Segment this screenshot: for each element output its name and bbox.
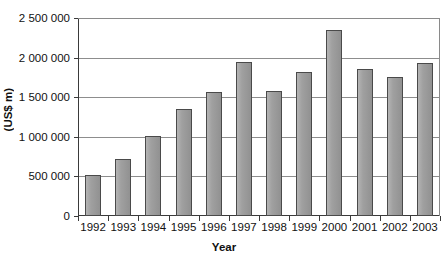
y-axis-tick-label: 500 000 xyxy=(28,170,70,182)
bar-2003 xyxy=(417,63,433,216)
bar-2001 xyxy=(357,69,373,216)
x-axis-tick-label: 1995 xyxy=(171,221,197,233)
bar-1994 xyxy=(145,136,161,216)
x-axis-tick-label: 1993 xyxy=(110,221,136,233)
bar-1995 xyxy=(176,109,192,216)
bar-1993 xyxy=(115,159,131,216)
bar-1998 xyxy=(266,91,282,216)
x-axis-tick-label: 2001 xyxy=(352,221,378,233)
x-axis-tick-label: 1997 xyxy=(231,221,257,233)
bar-2000 xyxy=(326,30,342,216)
x-axis-tick-label: 2002 xyxy=(382,221,408,233)
bar-1999 xyxy=(296,72,312,216)
x-axis-tick-label: 2000 xyxy=(322,221,348,233)
y-axis-tick-label: 1 500 000 xyxy=(19,91,70,103)
x-axis-tick-label: 1998 xyxy=(261,221,287,233)
x-axis-tick xyxy=(440,216,441,221)
y-axis-title: (US$ m) xyxy=(2,88,14,131)
x-axis-tick-label: 1994 xyxy=(141,221,167,233)
x-axis-title: Year xyxy=(0,241,448,253)
x-axis-tick-label: 2003 xyxy=(412,221,438,233)
bar-1992 xyxy=(85,175,101,216)
y-axis-tick-label: 1 000 000 xyxy=(19,131,70,143)
y-axis-tick-label: 2 500 000 xyxy=(19,12,70,24)
bar-chart: 0500 0001 000 0001 500 0002 000 0002 500… xyxy=(0,0,448,259)
x-axis-tick-label: 1992 xyxy=(80,221,106,233)
y-axis-tick-label: 0 xyxy=(64,210,70,222)
bar-series xyxy=(78,18,440,216)
x-axis-tick-labels: 1992199319941995199619971998199920002001… xyxy=(78,221,440,239)
y-axis-tick-label: 2 000 000 xyxy=(19,52,70,64)
bar-1996 xyxy=(206,92,222,216)
x-axis-tick-label: 1999 xyxy=(291,221,317,233)
bar-1997 xyxy=(236,62,252,216)
bar-2002 xyxy=(387,77,403,216)
x-axis-tick-label: 1996 xyxy=(201,221,227,233)
